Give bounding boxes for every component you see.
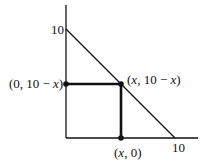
point-bottom — [118, 135, 124, 141]
point-corner — [118, 81, 124, 87]
diagram-canvas: 10 10 (0, 10 −x) (x, 10 − x) (x, 0) — [0, 0, 203, 168]
y-tick-label: 10 — [51, 22, 64, 37]
point-bottom-label: (x, 0) — [114, 145, 141, 160]
point-left-label: (0, 10 −x) — [9, 76, 63, 91]
point-corner-label: (x, 10 − x) — [127, 72, 181, 87]
point-left — [63, 81, 69, 87]
x-tick-label: 10 — [172, 140, 185, 155]
